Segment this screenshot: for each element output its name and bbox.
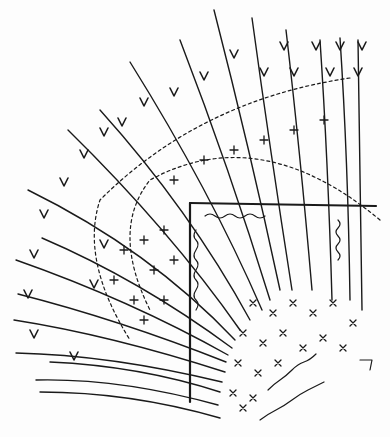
dashed-arcs: [94, 78, 380, 340]
flow-lines: [14, 10, 362, 418]
v-marks: [24, 42, 366, 360]
sketch-canvas: [0, 0, 390, 437]
field-line-sketch: [0, 0, 390, 437]
handwriting: [194, 214, 372, 420]
